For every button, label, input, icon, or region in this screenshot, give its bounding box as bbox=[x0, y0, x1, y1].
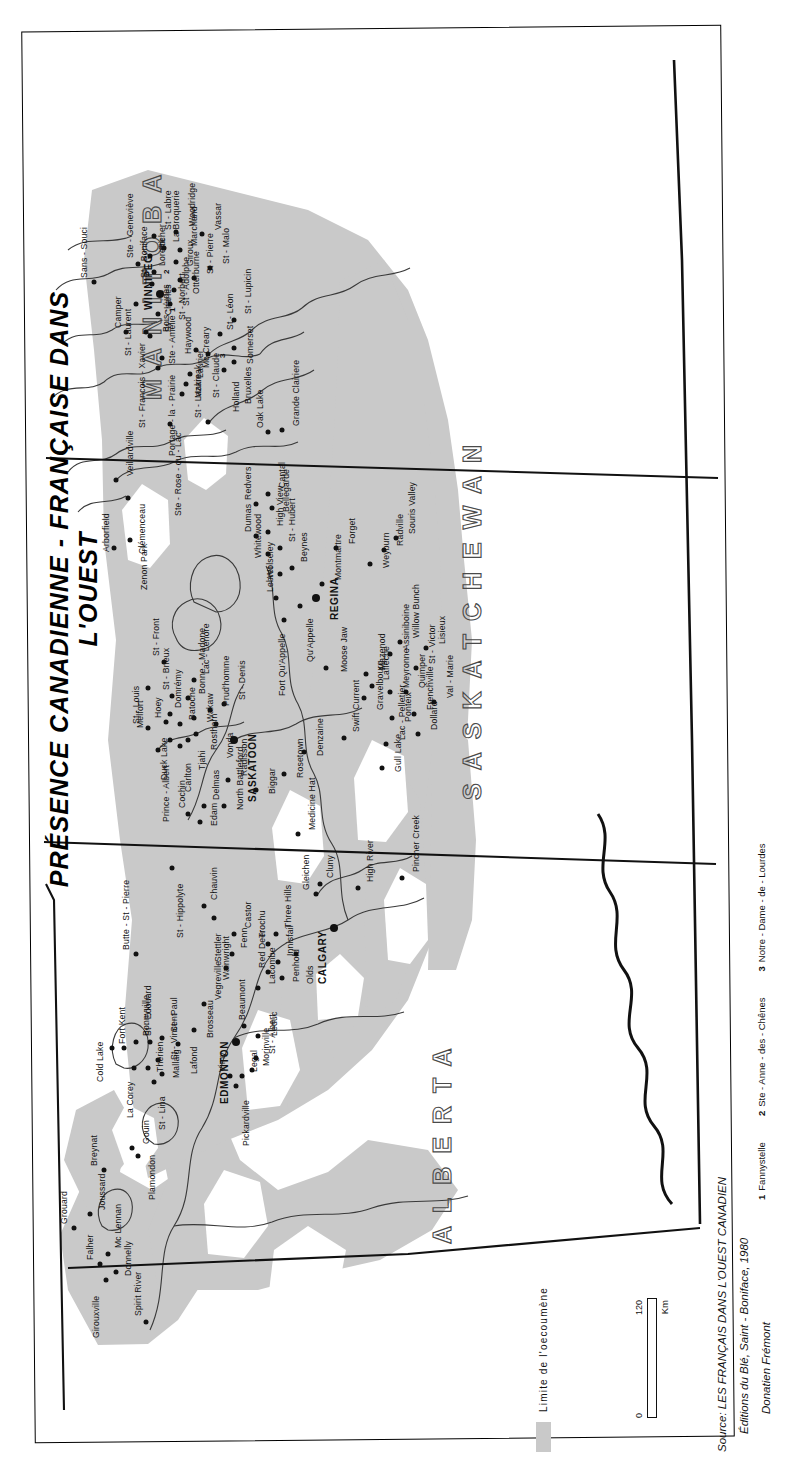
place-label: Chauvin bbox=[210, 867, 219, 900]
place-marker bbox=[232, 932, 237, 937]
place-label: Fenn bbox=[240, 928, 249, 948]
place-marker bbox=[242, 1024, 247, 1029]
place-label: Oak Lake bbox=[256, 390, 265, 428]
place-marker bbox=[214, 722, 219, 727]
place-label: Melfort bbox=[136, 700, 145, 728]
place-marker bbox=[370, 684, 375, 689]
place-marker bbox=[194, 348, 199, 353]
place-marker bbox=[122, 1046, 127, 1051]
place-label: Olds bbox=[306, 966, 315, 984]
place-label: Lafond bbox=[190, 1047, 199, 1075]
place-marker bbox=[368, 562, 373, 567]
place-label: Donnelly bbox=[124, 1241, 133, 1276]
scale-max: 120 bbox=[634, 1300, 644, 1315]
place-label: Falher bbox=[86, 1234, 95, 1260]
place-marker bbox=[202, 904, 207, 909]
place-label: La Corey bbox=[126, 1082, 135, 1118]
place-marker bbox=[330, 924, 338, 932]
place-marker bbox=[186, 812, 191, 817]
place-marker bbox=[320, 582, 325, 587]
place-label: Tjahi bbox=[198, 750, 207, 770]
place-label: Delmas bbox=[212, 770, 221, 800]
place-label: Leduc bbox=[270, 1012, 279, 1036]
place-marker bbox=[148, 254, 153, 259]
place-marker bbox=[160, 356, 165, 361]
place-marker bbox=[156, 1058, 161, 1063]
place-marker bbox=[186, 696, 191, 701]
place-marker bbox=[164, 720, 169, 725]
place-label: Pickardville bbox=[242, 1100, 251, 1146]
place-label: Grande Clairiere bbox=[292, 360, 301, 426]
place-marker bbox=[114, 1270, 119, 1275]
place-label: High River bbox=[366, 840, 375, 882]
place-marker bbox=[398, 640, 403, 645]
source-line-1: Source: LES FRANÇAIS DANS L'OUEST CANADI… bbox=[712, 1177, 734, 1452]
place-marker bbox=[282, 618, 287, 623]
place-marker bbox=[136, 1154, 141, 1159]
place-label: Pincher Creek bbox=[412, 815, 421, 872]
place-marker bbox=[132, 1066, 137, 1071]
place-label: St - Denis bbox=[238, 660, 247, 700]
place-label: Biggar bbox=[268, 768, 277, 794]
place-marker bbox=[404, 690, 409, 695]
place-label: Lisieux bbox=[438, 616, 447, 644]
place-marker bbox=[278, 572, 283, 577]
place-label: Val - Marie bbox=[446, 655, 455, 698]
place-marker bbox=[146, 726, 151, 731]
place-marker bbox=[144, 1320, 149, 1325]
place-marker bbox=[104, 1278, 109, 1283]
place-marker bbox=[202, 804, 207, 809]
place-label: Lac - Lenore bbox=[202, 623, 211, 674]
place-label: Joussard bbox=[98, 1174, 107, 1210]
place-marker bbox=[192, 276, 197, 281]
place-marker bbox=[416, 732, 421, 737]
legend-label: Limite de l'oecoumène bbox=[538, 1287, 549, 1412]
place-marker bbox=[178, 744, 183, 749]
place-marker bbox=[148, 1040, 153, 1045]
place-marker bbox=[266, 430, 271, 435]
place-label: EDMONTON bbox=[220, 1041, 230, 1104]
place-marker bbox=[282, 772, 287, 777]
place-label: CALGARY bbox=[318, 931, 328, 984]
place-marker bbox=[208, 708, 213, 713]
place-marker bbox=[206, 352, 211, 357]
place-marker bbox=[184, 382, 189, 387]
place-label: Wolseley bbox=[266, 542, 275, 578]
place-marker bbox=[200, 232, 205, 237]
place-label: Assiniboine bbox=[402, 604, 411, 650]
place-marker bbox=[256, 986, 261, 991]
numbered-legend-label: Notre - Dame - de - Lourdes bbox=[756, 843, 767, 962]
place-label: St - Malo bbox=[222, 228, 231, 264]
place-marker bbox=[152, 270, 157, 275]
place-marker bbox=[134, 952, 139, 957]
place-marker bbox=[174, 260, 179, 265]
place-marker bbox=[160, 1036, 165, 1041]
place-marker bbox=[152, 234, 157, 239]
place-label: Carlton bbox=[184, 763, 193, 792]
place-label: Portage - la - Prairie bbox=[168, 375, 177, 456]
place-label: St - Francois - Xavier bbox=[138, 343, 147, 428]
numbered-legend-label: Fannystelle bbox=[756, 1142, 767, 1191]
place-marker bbox=[280, 976, 285, 981]
numbered-legend-number: 3 bbox=[756, 966, 767, 971]
place-marker bbox=[356, 886, 361, 891]
numbered-legend: 1Fannystelle2Ste - Anne - des - Chênes3N… bbox=[756, 817, 767, 1200]
place-marker bbox=[266, 530, 271, 535]
place-marker bbox=[432, 700, 437, 705]
place-label: Wainwright bbox=[222, 936, 231, 980]
place-marker bbox=[276, 960, 281, 965]
place-label: St - Edouard bbox=[144, 985, 153, 1036]
place-label: Trochu bbox=[258, 910, 267, 938]
place-label: Moose Jaw bbox=[340, 627, 349, 672]
place-label: Swift Current bbox=[352, 680, 361, 732]
place-label: St - Brieux bbox=[162, 648, 171, 690]
place-label: Camper bbox=[114, 296, 123, 328]
province-label-saskatchewan: SASKATCHEWAN bbox=[458, 432, 487, 800]
place-marker bbox=[274, 596, 279, 601]
place-marker bbox=[294, 952, 299, 957]
place-marker bbox=[290, 566, 295, 571]
place-marker bbox=[280, 428, 285, 433]
place-marker bbox=[362, 696, 367, 701]
place-label: Three Hills bbox=[284, 885, 293, 928]
place-marker bbox=[222, 368, 227, 373]
